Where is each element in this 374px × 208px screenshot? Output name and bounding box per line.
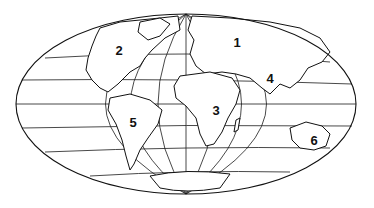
region-label-4: 4 xyxy=(266,72,273,85)
south-america xyxy=(108,94,162,170)
region-label-5: 5 xyxy=(129,116,136,129)
region-label-1: 1 xyxy=(233,36,240,49)
region-label-6: 6 xyxy=(310,134,317,147)
madagascar xyxy=(234,118,240,132)
continents xyxy=(86,16,330,191)
region-label-2: 2 xyxy=(115,44,122,57)
world-map xyxy=(0,0,374,208)
antarctica xyxy=(150,171,230,191)
region-label-3: 3 xyxy=(212,104,219,117)
africa xyxy=(174,72,240,146)
